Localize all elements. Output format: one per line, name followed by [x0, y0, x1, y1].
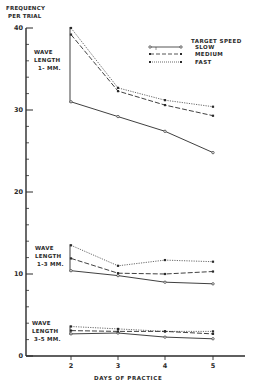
- svg-text:1- MM.: 1- MM.: [38, 65, 61, 71]
- y-tick-label: 20: [14, 188, 24, 196]
- svg-text:3-5 MM.: 3-5 MM.: [34, 336, 61, 342]
- group-label-2: WAVE LENGTH 1-3 MM.: [35, 245, 64, 267]
- y-tick-label: 40: [14, 24, 24, 32]
- svg-text:1-3 MM.: 1-3 MM.: [37, 261, 64, 267]
- svg-text:SLOW: SLOW: [195, 44, 215, 50]
- y-axis-label-line2: PER TRIAL: [8, 13, 42, 19]
- legend-medium: MEDIUM: [149, 51, 223, 57]
- legend-fast: FAST: [149, 59, 212, 65]
- x-tick-label: 3: [116, 362, 121, 370]
- data-series: [70, 27, 214, 340]
- svg-text:LENGTH: LENGTH: [35, 253, 62, 259]
- svg-text:LENGTH: LENGTH: [34, 57, 61, 63]
- svg-text:FAST: FAST: [195, 59, 212, 65]
- group-label-1: WAVE LENGTH 1- MM.: [34, 49, 61, 71]
- svg-text:WAVE: WAVE: [35, 245, 54, 251]
- x-tick-label: 4: [163, 362, 168, 370]
- y-axis-label-line1: FREQUENCY: [6, 5, 46, 11]
- svg-text:MEDIUM: MEDIUM: [195, 51, 223, 57]
- legend: TARGET SPEED SLOW MEDIUM FAST: [149, 38, 242, 65]
- x-tick-label: 5: [211, 362, 216, 370]
- y-tick-label: 30: [14, 106, 24, 114]
- series-slow-group-1: [71, 102, 213, 153]
- series-slow-group-3: [71, 333, 213, 339]
- x-tick-label: 2: [69, 362, 74, 370]
- axes: 0102030402345: [14, 24, 245, 370]
- svg-text:WAVE: WAVE: [32, 320, 51, 326]
- series-fast-group-2: [71, 245, 213, 265]
- group-label-3: WAVE LENGTH 3-5 MM.: [32, 320, 61, 342]
- line-chart: FREQUENCY PER TRIAL 0102030402345 WAVE L…: [0, 0, 253, 385]
- svg-text:WAVE: WAVE: [34, 49, 53, 55]
- y-tick-label: 0: [18, 352, 23, 360]
- y-tick-label: 10: [14, 270, 24, 278]
- svg-text:LENGTH: LENGTH: [32, 328, 59, 334]
- x-axis-label: DAYS OF PRACTICE: [94, 375, 162, 381]
- legend-slow: SLOW: [149, 44, 215, 50]
